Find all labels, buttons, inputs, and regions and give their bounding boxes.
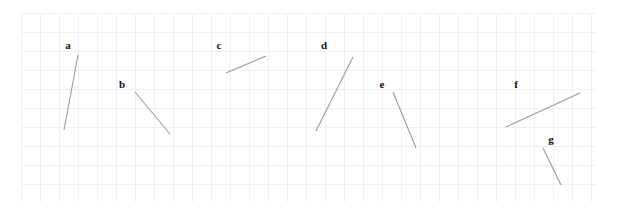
line-segment-b: [135, 92, 170, 134]
line-segment-g: [543, 148, 561, 185]
line-segment-d: [316, 57, 353, 131]
figure-canvas: abcdefg: [0, 0, 617, 215]
line-segment-figure: abcdefg: [0, 0, 617, 215]
line-segment-f: [506, 93, 580, 127]
segment-label-g: g: [548, 133, 554, 145]
grid-background: [21, 13, 596, 202]
segment-label-d: d: [321, 39, 327, 51]
segment-label-c: c: [217, 39, 222, 51]
segment-label-e: e: [380, 78, 385, 90]
segment-label-f: f: [514, 78, 518, 90]
segment-label-b: b: [119, 78, 125, 90]
labels-layer: abcdefg: [65, 39, 554, 145]
line-segment-e: [393, 92, 416, 148]
segment-label-a: a: [65, 39, 71, 51]
line-segment-a: [64, 55, 78, 130]
